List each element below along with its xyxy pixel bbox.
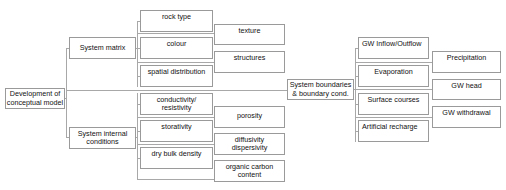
node-porosity-label: porosity [215,109,284,120]
branch-system-internal-line-2: conditions [78,138,128,146]
node-gw-head-label: GW head [433,82,500,90]
node-dry-bulk-density: dry bulk density [140,147,213,169]
node-artificial-recharge: Artificial recharge [358,120,429,142]
node-organic-carbon-content: organic carbon content [214,160,285,182]
node-gw-inflow-outflow: GW Inflow/Outflow [358,37,429,59]
node-conductivity-line-2: resistivity [141,104,212,112]
node-surface-courses: Surface courses [358,93,429,115]
node-rock-type: rock type [140,10,213,32]
node-colour: colour [140,37,213,59]
node-porosity: porosity [214,106,285,128]
node-gw-head: GW head [432,79,501,100]
node-gw-inflow-outflow-label: GW Inflow/Outflow [362,40,428,48]
node-colour-label: colour [141,40,212,48]
root-node: Development of conceptual model [5,88,65,109]
node-dry-bulk-density-label: dry bulk density [141,150,212,158]
node-rock-type-label: rock type [141,13,212,21]
branch-system-matrix-label: System matrix [80,44,126,52]
node-artificial-recharge-label: Artificial recharge [362,123,428,131]
node-evaporation-label: Evaporation [359,68,428,76]
root-node-line-2: conceptual model [7,99,63,107]
branch-system-matrix: System matrix [69,37,136,59]
node-diffusivity-dispersivity: diffusivity dispersivity [214,133,285,155]
node-organic-carbon-line-2: content [215,171,284,179]
node-spatial-distribution: spatial distribution [140,65,213,87]
node-spatial-distribution-label: spatial distribution [141,68,212,76]
node-evaporation: Evaporation [358,65,429,87]
node-structures: structures [214,51,285,73]
node-texture-label: texture [215,27,284,35]
node-precipitation-label: Precipitation [433,54,500,62]
node-diffusivity-line-2: dispersivity [215,144,284,152]
node-surface-courses-label: Surface courses [359,96,428,104]
node-structures-label: structures [215,54,284,62]
branch-system-internal-conditions: System internal conditions [69,127,136,149]
node-storativity-label: storativity [141,123,212,131]
branch-system-boundaries: System boundaries & boundary cond. [287,79,354,100]
node-conductivity-resistivity: conductivity/ resistivity [140,93,213,115]
node-gw-withdrawal: GW withdrawal [432,106,501,128]
node-precipitation: Precipitation [432,51,501,73]
node-gw-withdrawal-label: GW withdrawal [433,109,500,117]
branch-system-boundaries-line-2: & boundary cond. [290,90,352,98]
node-texture: texture [214,24,285,45]
node-storativity: storativity [140,120,213,142]
